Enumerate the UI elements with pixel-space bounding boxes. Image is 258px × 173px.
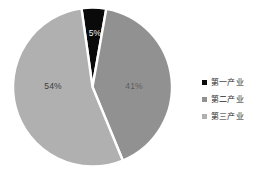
pie-chart: 5% 41% 54% 第一产业 第二产业 第三产业 [0,0,258,173]
legend-label: 第一产业 [211,78,244,87]
legend-item-third-industry[interactable]: 第三产业 [202,108,258,125]
legend-swatch-icon [202,97,207,102]
legend-label: 第二产业 [211,95,244,104]
legend-swatch-icon [202,114,207,119]
legend-swatch-icon [202,80,207,85]
legend-label: 第三产业 [211,112,244,121]
pie-plot-area: 5% 41% 54% [0,0,186,173]
legend-item-second-industry[interactable]: 第二产业 [202,91,258,108]
pie-slice-group [13,7,172,166]
chart-legend: 第一产业 第二产业 第三产业 [202,74,258,125]
pie-svg [0,0,186,173]
legend-item-first-industry[interactable]: 第一产业 [202,74,258,91]
